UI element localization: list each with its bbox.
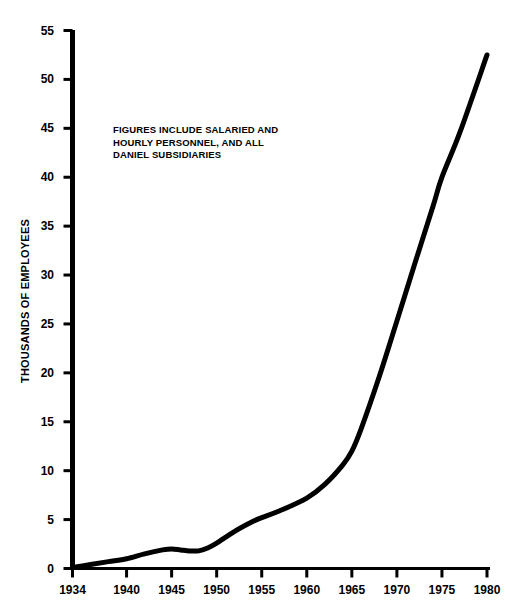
- x-tick-label: 1965: [329, 583, 375, 597]
- y-tick-label: 55: [20, 24, 54, 38]
- y-tick-label: 50: [20, 72, 54, 86]
- y-tick-label: 10: [20, 464, 54, 478]
- y-tick-label: 35: [20, 219, 54, 233]
- y-tick-label: 25: [20, 317, 54, 331]
- x-tick-label: 1980: [464, 583, 505, 597]
- x-tick-label: 1945: [149, 583, 195, 597]
- y-tick-label: 45: [20, 121, 54, 135]
- y-tick-label: 20: [20, 366, 54, 380]
- x-tick-label: 1940: [104, 583, 150, 597]
- x-tick-label: 1950: [194, 583, 240, 597]
- x-tick-label: 1955: [239, 583, 285, 597]
- x-tick-label: 1970: [374, 583, 420, 597]
- y-tick-label: 15: [20, 415, 54, 429]
- y-tick-label: 5: [20, 513, 54, 527]
- x-tick-label: 1975: [419, 583, 465, 597]
- x-tick-label: 1960: [284, 583, 330, 597]
- y-tick-label: 40: [20, 170, 54, 184]
- chart-annotation-note: FIGURES INCLUDE SALARIED AND HOURLY PERS…: [113, 124, 278, 162]
- y-tick-label: 0: [20, 562, 54, 576]
- axes: [70, 30, 490, 569]
- y-tick-label: 30: [20, 268, 54, 282]
- x-tick-label: 1934: [50, 583, 96, 597]
